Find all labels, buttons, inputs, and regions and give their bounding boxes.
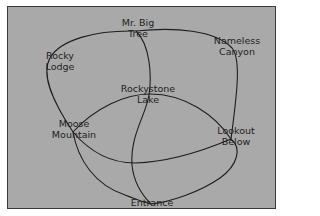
node-label-line2: Mountain: [52, 129, 96, 140]
trail-moose-lookout-lower: [73, 132, 231, 163]
node-entrance[interactable]: Entrance: [131, 197, 174, 208]
node-nameless-canyon[interactable]: Nameless Canyon: [214, 35, 260, 57]
node-label-line2: Canyon: [214, 46, 260, 57]
node-mr-big-tree[interactable]: Mr. Big Tree: [122, 17, 154, 39]
node-label-line1: Rocky: [46, 50, 75, 61]
node-label-line2: Tree: [122, 28, 154, 39]
node-label-line2: Below: [217, 136, 254, 147]
node-lookout-below[interactable]: Lookout Below: [217, 125, 254, 147]
node-label-line1: Entrance: [131, 197, 174, 208]
node-label-line1: Mr. Big: [122, 17, 154, 28]
trail-moose-entrance: [73, 132, 151, 204]
trail-bigtree-lodge-moose: [47, 31, 136, 132]
node-label-line1: Moose: [52, 118, 96, 129]
trail-lookout-entrance: [151, 139, 237, 204]
node-label-line1: Nameless: [214, 35, 260, 46]
node-label-line1: Lookout: [217, 125, 254, 136]
node-moose-mountain[interactable]: Moose Mountain: [52, 118, 96, 140]
node-label-line2: Lake: [121, 94, 175, 105]
node-label-line2: Lodge: [46, 61, 75, 72]
trail-bigtree-lake-entrance: [132, 31, 151, 204]
node-rockystone-lake[interactable]: Rockystone Lake: [121, 83, 175, 105]
node-label-line1: Rockystone: [121, 83, 175, 94]
node-rocky-lodge[interactable]: Rocky Lodge: [46, 50, 75, 72]
